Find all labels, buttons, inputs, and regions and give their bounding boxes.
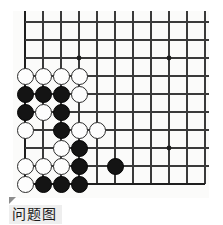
- go-stone-black[interactable]: [53, 122, 70, 139]
- go-stone-white[interactable]: [17, 176, 34, 193]
- go-stone-black[interactable]: [35, 86, 52, 103]
- go-stone-black[interactable]: [53, 176, 70, 193]
- go-stone-white[interactable]: [71, 86, 88, 103]
- go-stone-white[interactable]: [35, 68, 52, 85]
- go-stone-white[interactable]: [17, 122, 34, 139]
- go-stone-white[interactable]: [89, 122, 106, 139]
- diagram-caption-block: 问题图: [8, 197, 128, 224]
- go-stone-black[interactable]: [53, 86, 70, 103]
- go-stone-white[interactable]: [17, 158, 34, 175]
- go-stone-white[interactable]: [35, 158, 52, 175]
- go-stone-black[interactable]: [71, 140, 88, 157]
- go-board[interactable]: [13, 11, 209, 198]
- diagram-root: 问题图: [0, 0, 223, 225]
- go-stone-white[interactable]: [71, 122, 88, 139]
- diagram-caption-label: 问题图: [9, 205, 62, 224]
- go-stone-white[interactable]: [53, 140, 70, 157]
- go-stone-white[interactable]: [17, 68, 34, 85]
- go-stone-black[interactable]: [71, 158, 88, 175]
- go-stone-black[interactable]: [71, 176, 88, 193]
- go-stone-black[interactable]: [17, 104, 34, 121]
- go-stone-white[interactable]: [53, 158, 70, 175]
- triangle-marker-icon: [9, 197, 16, 204]
- go-stone-white[interactable]: [71, 68, 88, 85]
- go-stone-black[interactable]: [107, 158, 124, 175]
- go-stone-black[interactable]: [35, 176, 52, 193]
- go-stone-white[interactable]: [53, 68, 70, 85]
- go-stone-black[interactable]: [53, 104, 70, 121]
- go-stone-black[interactable]: [17, 86, 34, 103]
- go-stone-white[interactable]: [35, 104, 52, 121]
